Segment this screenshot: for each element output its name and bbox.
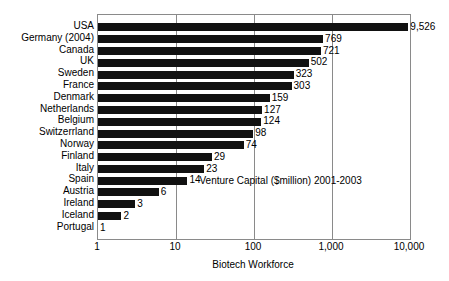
bar [98,82,292,90]
category-label: Canada [0,44,94,56]
bar-row: 159 [98,92,410,104]
category-label: UK [0,55,94,67]
category-label: Germany (2004) [0,32,94,44]
bar-row: 6 [98,186,410,198]
bar-value-label: 502 [311,55,328,68]
bar-row: 29 [98,151,410,163]
bar [98,23,408,31]
bar-value-label: 6 [161,185,167,198]
bar-row: 74 [98,139,410,151]
category-label: Netherlands [0,103,94,115]
bar [98,71,294,79]
category-label: Denmark [0,91,94,103]
bar-value-label: 1 [100,221,106,234]
bar [98,118,261,126]
bar [98,153,212,161]
x-tick-label: 1 [94,241,100,252]
bar-value-label: 98 [255,126,266,139]
bar-row: 23 [98,163,410,175]
bar-row: 769 [98,33,410,45]
bar [98,141,244,149]
category-label: Norway [0,138,94,150]
category-label: Ireland [0,197,94,209]
bar [98,188,159,196]
bar [98,106,262,114]
category-label: Spain [0,173,94,185]
category-label: Switzerrland [0,126,94,138]
category-label: Sweden [0,67,94,79]
bar-row: 502 [98,56,410,68]
bar [98,59,309,67]
x-tick-label: 10,000 [394,241,425,252]
category-label: Portugal [0,221,94,233]
bar [98,47,321,55]
category-label: USA [0,20,94,32]
category-label: Italy [0,162,94,174]
bar-value-label: 303 [294,79,311,92]
bar-row: 9,526 [98,21,410,33]
biotech-workforce-chart: USAGermany (2004)CanadaUKSwedenFranceDen… [0,0,449,281]
bar-row: 127 [98,104,410,116]
bar-row: 323 [98,68,410,80]
bar-value-label: 9,526 [410,20,435,33]
category-axis-labels: USAGermany (2004)CanadaUKSwedenFranceDen… [0,14,94,238]
plot-area: 9,52676972150232330315912712498742923146… [97,14,411,240]
category-label: Belgium [0,114,94,126]
bar [98,165,204,173]
bar-row: 721 [98,45,410,57]
bar-value-label: 74 [246,138,257,151]
x-tick-label: 10 [169,241,180,252]
bar-value-label: 23 [206,162,217,175]
category-label: Austria [0,185,94,197]
bar [98,177,187,185]
bar [98,94,270,102]
category-label: Iceland [0,209,94,221]
bar [98,35,323,43]
bar [98,212,121,220]
bar [98,130,253,138]
chart-annotation: Venture Capital ($million) 2001-2003 [199,175,361,186]
bar-value-label: 2 [123,209,129,222]
x-tick-label: 100 [245,241,262,252]
bar-row: 124 [98,115,410,127]
bar-row: 303 [98,80,410,92]
bar-value-label: 3 [137,197,143,210]
x-axis-title: Biotech Workforce [97,259,409,270]
bar-row: 2 [98,210,410,222]
bar [98,200,135,208]
bar-row: 3 [98,198,410,210]
bar-row: 1 [98,222,410,234]
x-tick-label: 1,000 [318,241,343,252]
category-label: France [0,79,94,91]
bar-rows: 9,52676972150232330315912712498742923146… [98,15,410,239]
x-axis-ticks: 1101001,00010,000 [0,241,449,257]
category-label: Finland [0,150,94,162]
